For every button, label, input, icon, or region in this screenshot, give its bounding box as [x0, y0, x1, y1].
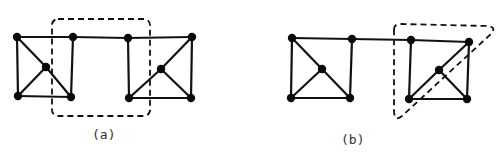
graph-node	[435, 66, 443, 74]
graph-edge	[467, 42, 469, 99]
graph-edge	[17, 37, 46, 67]
graph-edge	[128, 38, 129, 98]
graph-node	[187, 94, 195, 102]
graph-edge	[292, 38, 352, 39]
figure-b-caption: (b)	[341, 132, 364, 147]
graph-edge	[292, 38, 322, 69]
graph-edge	[161, 37, 192, 69]
figure-b	[287, 24, 494, 118]
graph-node	[125, 94, 133, 102]
graph-node	[287, 94, 295, 102]
graph-edge	[18, 67, 46, 96]
graph-node	[463, 95, 471, 103]
graph-diagram	[0, 0, 502, 155]
graph-node	[346, 94, 354, 102]
graph-edge	[409, 70, 439, 99]
graph-edge	[409, 40, 411, 99]
graph-node	[42, 63, 50, 71]
graph-edge	[291, 38, 292, 98]
graph-node	[465, 38, 473, 46]
graph-node	[407, 36, 415, 44]
graph-edge	[71, 37, 73, 97]
graph-edge	[129, 69, 161, 98]
graph-node	[288, 34, 296, 42]
graph-edge	[411, 40, 469, 42]
graph-node	[157, 65, 165, 73]
graph-node	[318, 65, 326, 73]
graph-edge	[128, 37, 192, 38]
graph-node	[188, 33, 196, 41]
graph-node	[405, 95, 413, 103]
dashed-highlight-region	[52, 19, 150, 116]
graph-edge	[161, 69, 191, 98]
figure-a-caption: (a)	[92, 127, 115, 142]
graph-node	[124, 34, 132, 42]
graph-edge	[46, 67, 71, 97]
graph-edge	[18, 96, 71, 97]
graph-node	[14, 92, 22, 100]
graph-edge	[350, 39, 352, 98]
graph-node	[67, 93, 75, 101]
graph-node	[13, 33, 21, 41]
graph-edge	[73, 37, 128, 38]
graph-edge	[439, 42, 469, 70]
graph-edge	[291, 69, 322, 98]
graph-edge	[439, 70, 467, 99]
graph-edge	[322, 69, 350, 98]
graph-edge	[191, 37, 192, 98]
graph-edge	[352, 39, 411, 40]
graph-node	[69, 33, 77, 41]
graph-edge	[17, 37, 18, 96]
figure-a	[13, 19, 196, 116]
graph-node	[348, 35, 356, 43]
